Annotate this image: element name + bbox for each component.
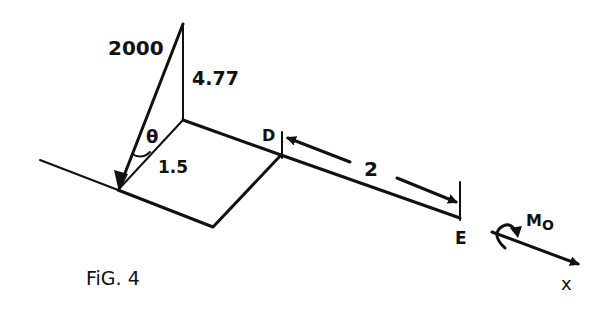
point-d-label: D (262, 126, 275, 145)
force-label: 2000 (108, 36, 164, 60)
fig4-diagram: 2000 4.77 θ 1.5 D 2 E MO x FiG. 4 (0, 0, 608, 313)
moment-label-main: M (526, 211, 542, 230)
axis-label: x (561, 273, 572, 294)
angle-label: θ (146, 126, 158, 147)
moment-label-sub: O (542, 217, 554, 233)
plate-outline (118, 120, 281, 227)
support-line (40, 160, 118, 190)
moment-arrowhead (510, 226, 522, 238)
span-label: 2 (364, 157, 378, 181)
angle-arc (132, 152, 150, 157)
arm-label: 1.5 (158, 157, 188, 177)
figure-caption: FiG. 4 (86, 267, 140, 289)
height-label: 4.77 (192, 67, 239, 89)
dim-arrow-left (288, 138, 350, 162)
point-e-label: E (455, 228, 467, 248)
moment-label: MO (526, 211, 554, 233)
